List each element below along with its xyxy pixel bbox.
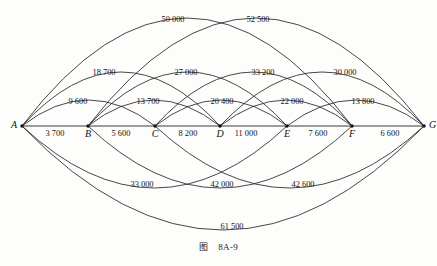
node-label-C: C xyxy=(152,128,159,139)
node-label-A: A xyxy=(10,119,18,130)
node-label-G: G xyxy=(429,119,436,130)
edge-A-D xyxy=(22,72,220,126)
edge-label-E-F: 7 600 xyxy=(309,129,328,138)
arc-diagram: ABCDEFG 3 7005 6008 20011 0007 6006 6009… xyxy=(0,0,437,266)
edge-label-C-E: 20 400 xyxy=(210,97,233,106)
figure-caption: 图8A-9 xyxy=(0,240,437,253)
node-label-F: F xyxy=(348,128,356,139)
edges-layer xyxy=(22,18,424,230)
nodes-layer: ABCDEFG xyxy=(10,119,436,139)
node-dot-G xyxy=(422,124,425,127)
edge-C-F xyxy=(155,72,352,126)
edge-label-B-D: 13 700 xyxy=(136,97,159,106)
edge-B-E xyxy=(88,72,287,126)
edge-label-A-B: 3 700 xyxy=(46,129,65,138)
figure-container: ABCDEFG 3 7005 6008 20011 0007 6006 6009… xyxy=(0,0,437,266)
edge-label-B-E: 27 000 xyxy=(174,68,197,77)
edge-label-D-F: 22 000 xyxy=(280,97,303,106)
edge-label-B-C: 5 600 xyxy=(112,129,131,138)
caption-label: 图 xyxy=(199,242,208,252)
edge-label-D-G: 30 000 xyxy=(333,68,356,77)
edge-label-D-E: 11 000 xyxy=(235,129,258,138)
edge-A-G xyxy=(22,126,424,230)
node-label-D: D xyxy=(215,128,224,139)
edge-label-A-G: 61 500 xyxy=(220,222,243,231)
edge-A-C xyxy=(22,100,155,126)
edge-label-A-F: 50 000 xyxy=(161,15,184,24)
node-label-E: E xyxy=(283,128,290,139)
edge-label-B-F: 42 000 xyxy=(210,180,233,189)
edge-label-C-D: 8 200 xyxy=(179,129,198,138)
edge-label-C-F: 33 200 xyxy=(251,68,274,77)
edge-D-G xyxy=(220,72,424,126)
node-dot-A xyxy=(20,124,23,127)
node-label-B: B xyxy=(85,128,91,139)
edge-label-F-G: 6 600 xyxy=(381,129,400,138)
edge-label-E-G: 13 800 xyxy=(351,97,374,106)
edge-label-B-G: 52 500 xyxy=(246,15,269,24)
edge-label-A-E: 33 000 xyxy=(130,180,153,189)
edge-label-A-D: 18 700 xyxy=(92,68,115,77)
edge-label-C-G: 42 600 xyxy=(291,180,314,189)
caption-number: 8A-9 xyxy=(218,242,238,252)
edge-label-A-C: 9 600 xyxy=(69,97,88,106)
